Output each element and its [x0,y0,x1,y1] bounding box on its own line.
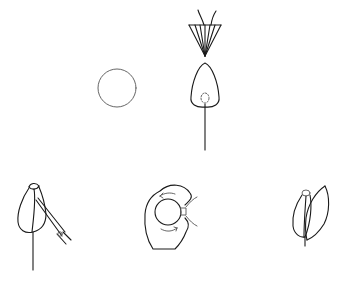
bud-with-needle-figure [18,183,71,270]
pollen-grain-figure [98,69,136,107]
cone-ovule-figure [189,10,221,150]
rotation-cross-section-figure [145,185,197,249]
botanical-diagram [0,0,347,281]
opening-bud-figure [293,186,329,246]
